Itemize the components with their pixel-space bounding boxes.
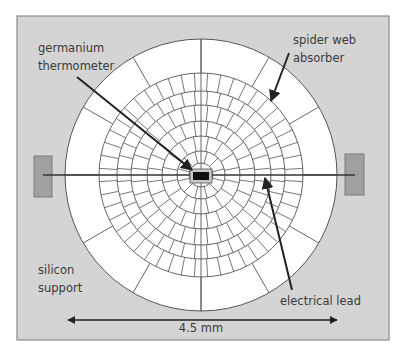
- label-silicon-line2: support: [38, 281, 83, 295]
- thermometer-chip: [193, 172, 209, 180]
- label-electrical-lead: electrical lead: [280, 294, 361, 308]
- label-spider-web-line1: spider web: [293, 33, 356, 47]
- label-germanium-line2: thermometer: [38, 59, 114, 73]
- label-germanium-line1: germanium: [38, 41, 104, 55]
- left-contact-pad: [34, 156, 52, 197]
- label-spider-web-line2: absorber: [293, 51, 344, 65]
- spider-web-bolometer-diagram: germanium thermometer spider web absorbe…: [0, 0, 403, 355]
- label-silicon-line1: silicon: [38, 263, 74, 277]
- germanium-thermometer: [190, 169, 212, 183]
- label-scale: 4.5 mm: [179, 321, 223, 335]
